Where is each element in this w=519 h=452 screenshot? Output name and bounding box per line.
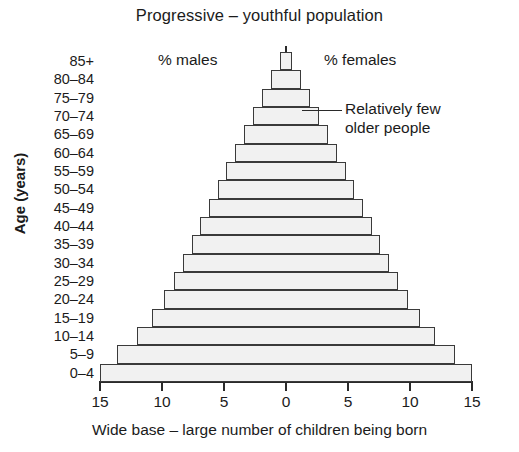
bar-male-0–4 — [100, 364, 286, 382]
y-tick-label-50–54: 50–54 — [54, 180, 94, 198]
bar-male-5–9 — [117, 345, 286, 363]
bar-female-20–24 — [286, 290, 408, 308]
bar-female-75–79 — [286, 89, 310, 107]
x-tick-label-0-3: 0 — [282, 393, 291, 411]
x-axis-caption: Wide base – large number of children bei… — [0, 421, 519, 439]
pyramid-row — [100, 235, 472, 253]
older-people-annotation-line1: Relatively few — [345, 99, 441, 118]
pyramid-row — [100, 345, 472, 363]
pyramid-row — [100, 290, 472, 308]
x-tick-label-5-4: 5 — [344, 393, 353, 411]
x-tick-mark — [409, 382, 411, 391]
pyramid-row — [100, 364, 472, 382]
bar-male-60–64 — [235, 144, 286, 162]
y-tick-label-65–69: 65–69 — [54, 125, 94, 143]
bar-female-45–49 — [286, 199, 363, 217]
bar-male-80–84 — [271, 70, 286, 88]
y-tick-label-40–44: 40–44 — [54, 217, 94, 235]
y-tick-label-5–9: 5–9 — [70, 345, 94, 363]
bar-female-85+ — [286, 52, 292, 70]
bar-female-30–34 — [286, 254, 389, 272]
bar-male-55–59 — [226, 162, 286, 180]
pyramid-row — [100, 217, 472, 235]
x-tick-mark — [347, 382, 349, 391]
x-axis-ticks: 15105051015 — [100, 382, 472, 392]
y-tick-label-45–49: 45–49 — [54, 199, 94, 217]
pyramid-row — [100, 162, 472, 180]
bar-male-75–79 — [262, 89, 286, 107]
males-series-label: % males — [158, 51, 217, 69]
x-tick-label-15-6: 15 — [463, 393, 480, 411]
bar-male-10–14 — [137, 327, 286, 345]
pyramid-row — [100, 309, 472, 327]
x-tick-label-5-2: 5 — [220, 393, 229, 411]
bar-male-35–39 — [192, 235, 286, 253]
x-tick-label-10-1: 10 — [153, 393, 170, 411]
y-tick-label-10–14: 10–14 — [54, 327, 94, 345]
older-people-annotation-line2: older people — [345, 118, 441, 137]
y-tick-label-70–74: 70–74 — [54, 107, 94, 125]
y-tick-label-15–19: 15–19 — [54, 309, 94, 327]
y-tick-label-25–29: 25–29 — [54, 272, 94, 290]
annotation-leader-line — [302, 110, 342, 111]
pyramid-row — [100, 180, 472, 198]
y-tick-label-0–4: 0–4 — [70, 364, 94, 382]
bar-male-20–24 — [164, 290, 286, 308]
bar-male-40–44 — [200, 217, 286, 235]
bar-male-65–69 — [244, 125, 286, 143]
bar-female-40–44 — [286, 217, 372, 235]
bar-female-80–84 — [286, 70, 301, 88]
chart-title: Progressive – youthful population — [0, 6, 519, 25]
pyramid-row — [100, 52, 472, 70]
y-axis-tick-labels: 85+80–8475–7970–7465–6960–6455–5950–5445… — [20, 52, 94, 382]
bar-male-15–19 — [152, 309, 286, 327]
bar-male-45–49 — [209, 199, 286, 217]
y-tick-label-75–79: 75–79 — [54, 89, 94, 107]
y-tick-label-55–59: 55–59 — [54, 162, 94, 180]
pyramid-row — [100, 144, 472, 162]
bar-female-5–9 — [286, 345, 455, 363]
y-tick-label-85+: 85+ — [69, 52, 94, 70]
bar-female-55–59 — [286, 162, 346, 180]
females-series-label: % females — [324, 51, 396, 69]
pyramid-row — [100, 70, 472, 88]
older-people-annotation: Relatively few older people — [345, 99, 441, 137]
y-tick-label-20–24: 20–24 — [54, 290, 94, 308]
bar-female-10–14 — [286, 327, 435, 345]
bar-female-25–29 — [286, 272, 398, 290]
bar-female-0–4 — [286, 364, 472, 382]
bar-female-60–64 — [286, 144, 337, 162]
population-pyramid-chart: Progressive – youthful population Age (y… — [0, 0, 519, 452]
x-tick-mark — [161, 382, 163, 391]
pyramid-row — [100, 272, 472, 290]
x-tick-mark — [223, 382, 225, 391]
pyramid-row — [100, 327, 472, 345]
y-tick-label-30–34: 30–34 — [54, 254, 94, 272]
bar-male-25–29 — [174, 272, 286, 290]
x-tick-mark — [471, 382, 473, 391]
pyramid-row — [100, 199, 472, 217]
bar-female-50–54 — [286, 180, 354, 198]
pyramid-row — [100, 254, 472, 272]
x-tick-label-10-5: 10 — [401, 393, 418, 411]
bar-male-70–74 — [253, 107, 286, 125]
x-tick-mark — [99, 382, 101, 391]
y-tick-label-35–39: 35–39 — [54, 235, 94, 253]
bar-male-30–34 — [183, 254, 286, 272]
bar-male-50–54 — [218, 180, 286, 198]
x-tick-label-15-0: 15 — [91, 393, 108, 411]
x-tick-mark — [285, 382, 287, 391]
bar-female-15–19 — [286, 309, 420, 327]
y-tick-label-60–64: 60–64 — [54, 144, 94, 162]
y-tick-label-80–84: 80–84 — [54, 70, 94, 88]
bar-female-65–69 — [286, 125, 328, 143]
bar-female-35–39 — [286, 235, 380, 253]
